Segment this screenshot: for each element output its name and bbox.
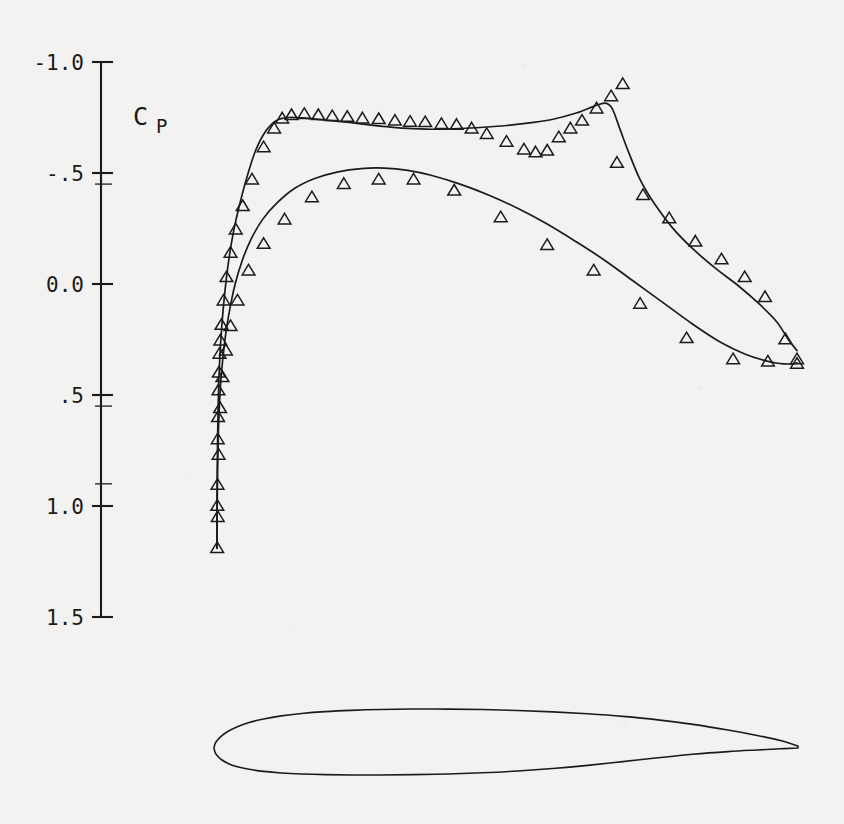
- data-marker-triangle: [480, 128, 493, 138]
- data-marker-triangle: [242, 264, 255, 275]
- markers-lower-surface-measured: [211, 173, 803, 521]
- airfoil-section: [214, 709, 798, 775]
- y-tick-label-0.0: 0.0: [46, 273, 84, 297]
- y-axis-major-ticks: [92, 62, 113, 617]
- data-marker-triangle: [759, 291, 772, 302]
- axis-title-main: C: [133, 102, 148, 131]
- axis-title-cp: C P: [133, 102, 167, 137]
- data-marker-triangle: [541, 145, 554, 156]
- data-marker-triangle: [727, 353, 740, 364]
- curve-lower-surface-computed: [217, 168, 797, 548]
- data-marker-triangle: [389, 115, 402, 126]
- data-marker-triangle: [738, 271, 751, 282]
- data-marker-triangle: [689, 236, 702, 247]
- data-marker-triangle: [494, 211, 507, 222]
- y-tick-label--.5: -.5: [46, 162, 84, 186]
- axis-title-subscript: P: [156, 115, 167, 137]
- y-tick-label-1.5: 1.5: [46, 606, 84, 630]
- airfoil-outline: [214, 709, 798, 775]
- y-tick-label--1.0: -1.0: [33, 51, 84, 75]
- data-marker-triangle: [407, 173, 420, 184]
- data-marker-triangle: [576, 115, 589, 126]
- data-marker-triangle: [372, 173, 385, 184]
- y-axis-tick-labels: -1.0-.50.0.51.01.5: [33, 51, 84, 630]
- data-marker-triangle: [341, 111, 354, 122]
- data-marker-triangle: [500, 136, 513, 147]
- markers-upper-surface-measured: [211, 78, 804, 553]
- data-marker-triangle: [356, 112, 369, 123]
- cp-distribution-figure: -1.0-.50.0.51.01.5 C P: [0, 0, 844, 824]
- data-marker-triangle: [605, 90, 618, 101]
- data-marker-triangle: [634, 298, 647, 309]
- data-marker-triangle: [564, 122, 577, 133]
- data-marker-triangle: [337, 178, 350, 189]
- figure-page: -1.0-.50.0.51.01.5 C P: [0, 0, 844, 824]
- data-marker-triangle: [268, 122, 281, 133]
- data-marker-triangle: [435, 118, 448, 128]
- data-marker-triangle: [326, 110, 339, 121]
- curve-upper-surface-computed: [217, 103, 797, 548]
- data-marker-triangle: [587, 264, 600, 275]
- cp-curves: [217, 103, 797, 548]
- data-marker-triangle: [448, 185, 461, 196]
- y-axis: -1.0-.50.0.51.01.5: [33, 51, 113, 630]
- y-axis-minor-ticks: [95, 184, 112, 484]
- data-marker-triangle: [680, 332, 693, 343]
- y-tick-label-1.0: 1.0: [46, 495, 84, 519]
- data-marker-triangle: [541, 239, 554, 250]
- data-marker-triangle: [306, 191, 319, 202]
- data-marker-triangle: [257, 238, 270, 249]
- data-marker-triangle: [298, 108, 311, 119]
- data-marker-triangle: [404, 116, 417, 127]
- data-marker-triangle: [278, 213, 291, 224]
- data-marker-triangle: [518, 143, 531, 154]
- y-tick-label-.5: .5: [59, 384, 84, 408]
- data-marker-triangle: [715, 253, 728, 263]
- data-marker-triangle: [372, 113, 385, 124]
- data-marker-triangle: [312, 109, 325, 120]
- data-marker-triangle: [419, 116, 432, 127]
- data-marker-triangle: [611, 157, 624, 168]
- data-marker-triangle: [616, 78, 629, 89]
